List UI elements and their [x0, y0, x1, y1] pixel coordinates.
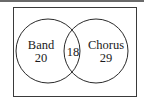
venn-diagram: Band 20 18 Chorus 29 — [0, 0, 144, 102]
chorus-only-count: 29 — [100, 51, 113, 65]
band-label: Band — [28, 38, 55, 52]
band-only-count: 20 — [35, 51, 48, 65]
chorus-label: Chorus — [88, 38, 124, 52]
intersection-count: 18 — [67, 45, 80, 59]
